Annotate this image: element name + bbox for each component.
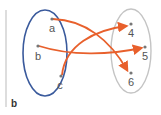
- point-c: [59, 74, 62, 77]
- arrow-b-to-5: [39, 46, 141, 53]
- label-a: a: [49, 22, 56, 34]
- label-c: c: [57, 79, 63, 91]
- label-5: 5: [142, 50, 148, 62]
- mapping-diagram: a b c 4 5 6 b: [0, 0, 161, 115]
- label-b: b: [35, 50, 41, 62]
- point-b: [36, 44, 39, 47]
- point-5: [143, 45, 146, 48]
- label-6: 6: [128, 76, 134, 88]
- point-a: [50, 17, 53, 20]
- label-4: 4: [128, 27, 134, 39]
- point-4: [129, 22, 132, 25]
- point-6: [129, 71, 132, 74]
- arrow-a-to-6: [53, 19, 127, 70]
- figure-label: b: [11, 98, 17, 109]
